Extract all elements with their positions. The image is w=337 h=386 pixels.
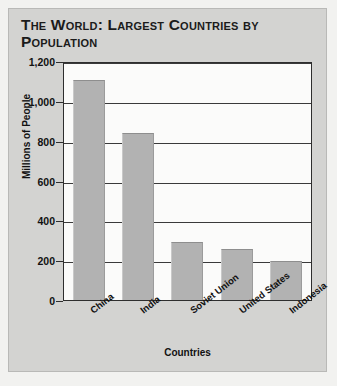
bar-series [64, 63, 311, 300]
bar [122, 133, 154, 300]
bar [73, 80, 105, 300]
y-axis-tick-mark [56, 261, 63, 262]
y-axis-tick-mark [56, 221, 63, 222]
y-axis-tick-mark [56, 62, 63, 63]
y-axis-tick-mark [56, 142, 63, 143]
plot-area [63, 62, 312, 301]
bar [171, 242, 203, 300]
chart-figure: The World: Largest Countries by Populati… [8, 8, 327, 372]
x-axis-label: Countries [63, 347, 312, 358]
y-axis-tick-marks [9, 62, 63, 301]
y-axis-tick-mark [56, 102, 63, 103]
y-axis-tick-mark [56, 301, 63, 302]
chart-title: The World: Largest Countries by Populati… [21, 16, 313, 50]
y-axis-tick-mark [56, 182, 63, 183]
